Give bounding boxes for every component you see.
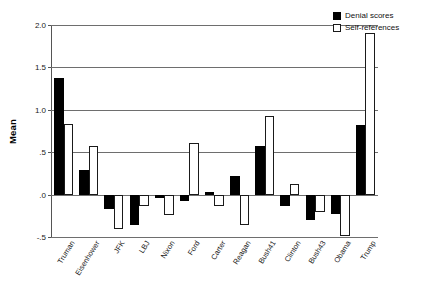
bar-lbj-self	[139, 195, 149, 206]
bar-truman-self	[64, 124, 74, 194]
y-axis-tick-label: 2.0	[35, 21, 46, 30]
bar-reagan-self	[240, 195, 250, 226]
bar-reagan-denial	[230, 176, 240, 195]
bar-group	[353, 25, 378, 237]
bar-eisenhower-denial	[79, 170, 89, 195]
x-axis-tick-label: LBJ	[137, 239, 151, 255]
bar-group	[76, 25, 101, 237]
filled-square-icon	[333, 12, 341, 20]
bar-group	[227, 25, 252, 237]
y-axis-tick	[48, 237, 51, 238]
x-axis-tick-label: Ford	[186, 239, 202, 257]
bar-jfk-self	[114, 195, 124, 230]
legend-label-denial-scores: Denial scores	[345, 11, 393, 20]
x-axis-tick-label: Obama	[332, 239, 353, 265]
outlined-square-icon	[333, 24, 341, 32]
x-axis-tick-label: Bush41	[256, 239, 277, 265]
bar-group	[126, 25, 151, 237]
bar-ford-denial	[180, 195, 190, 201]
bar-carter-self	[214, 195, 224, 206]
bar-trump-self	[365, 33, 375, 194]
x-axis-tick-label: Truman	[55, 239, 76, 265]
bar-truman-denial	[54, 78, 64, 195]
bar-group	[252, 25, 277, 237]
bar-group	[152, 25, 177, 237]
bar-group	[177, 25, 202, 237]
bars-layer	[51, 25, 378, 237]
y-axis-tick-label: 1.5	[35, 63, 46, 72]
bar-lbj-denial	[130, 195, 140, 226]
bar-bush43-denial	[306, 195, 316, 220]
bar-bush41-self	[265, 116, 275, 195]
chart-legend: Denial scores Self-references	[333, 11, 399, 32]
bar-carter-denial	[205, 192, 215, 195]
x-axis-tick-label: Clinton	[283, 239, 303, 264]
gridline	[51, 237, 378, 238]
plot-area: -.5.0.51.01.52.0	[51, 25, 378, 237]
bar-nixon-denial	[155, 195, 165, 198]
bar-clinton-self	[290, 184, 300, 194]
x-axis-tick-label: Eisenhower	[73, 239, 101, 277]
bar-jfk-denial	[104, 195, 114, 209]
y-axis-tick-label: .0	[39, 190, 46, 199]
bar-bush41-denial	[255, 146, 265, 194]
x-axis-tick-label: Reagan	[231, 239, 253, 266]
x-axis-tick-label: Nixon	[159, 239, 177, 260]
bar-eisenhower-self	[89, 146, 99, 194]
legend-item-self-references: Self-references	[333, 23, 399, 32]
bar-group	[277, 25, 302, 237]
bar-ford-self	[189, 143, 199, 195]
x-axis-tick-label: Trump	[359, 239, 378, 262]
legend-label-self-references: Self-references	[345, 23, 399, 32]
legend-item-denial-scores: Denial scores	[333, 11, 399, 20]
x-axis-tick-label: Carter	[208, 239, 227, 261]
bar-group	[328, 25, 353, 237]
y-axis-title-text: Mean	[8, 118, 19, 143]
y-axis-tick-label: .5	[39, 148, 46, 157]
bar-clinton-denial	[280, 195, 290, 207]
bar-group	[51, 25, 76, 237]
x-axis-tick-label: Bush43	[307, 239, 328, 265]
y-axis-title: Mean	[4, 96, 22, 166]
bar-trump-denial	[356, 125, 366, 195]
bar-nixon-self	[164, 195, 174, 215]
y-axis-tick-label: 1.0	[35, 105, 46, 114]
y-axis-tick-label: -.5	[37, 233, 46, 242]
bar-group	[101, 25, 126, 237]
bar-obama-self	[340, 195, 350, 237]
x-axis-labels: TrumanEisenhowerJFKLBJNixonFordCarterRea…	[51, 239, 378, 292]
bar-group	[303, 25, 328, 237]
bar-chart: Mean -.5.0.51.01.52.0 TrumanEisenhowerJF…	[0, 0, 448, 292]
bar-bush43-self	[315, 195, 325, 212]
x-axis-tick-label: JFK	[112, 239, 127, 255]
bar-obama-denial	[331, 195, 341, 215]
bar-group	[202, 25, 227, 237]
